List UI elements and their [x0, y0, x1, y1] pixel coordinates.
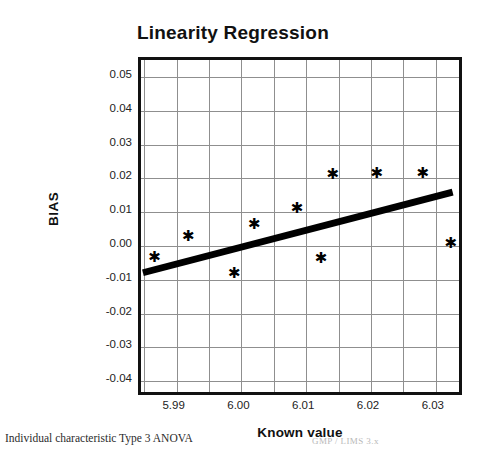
- y-axis-ticks: 0.050.040.030.020.010.00-0.01-0.02-0.03-…: [84, 57, 132, 395]
- x-tick-label: 6.02: [338, 399, 398, 411]
- plot-area: ✱✱✱✱✱✱✱✱✱✱: [138, 57, 462, 395]
- x-tick-label: 5.99: [144, 399, 204, 411]
- x-tick-label: 6.01: [273, 399, 333, 411]
- y-axis-label: BIAS: [46, 192, 61, 226]
- x-axis-ticks: 5.996.006.016.026.03: [138, 399, 462, 419]
- chart-title-text: Linearity Regression: [137, 22, 329, 44]
- y-tick-label: 0.04: [88, 102, 132, 114]
- y-tick-label: -0.01: [88, 271, 132, 283]
- y-tick-label: -0.02: [88, 305, 132, 317]
- y-tick-label: -0.04: [88, 372, 132, 384]
- y-tick-label: 0.01: [88, 203, 132, 215]
- footer-left-note: Individual characteristic Type 3 ANOVA: [5, 432, 193, 444]
- x-tick-label: 6.00: [208, 399, 268, 411]
- page-title: Linearity Regression: [0, 22, 486, 44]
- x-tick-label: 6.03: [403, 399, 463, 411]
- y-tick-label: 0.03: [88, 136, 132, 148]
- footer-right-watermark: GMP / LIMS 3.x: [312, 436, 379, 446]
- regression-line: [141, 60, 459, 392]
- y-tick-label: 0.02: [88, 169, 132, 181]
- y-tick-label: 0.00: [88, 237, 132, 249]
- y-tick-label: -0.03: [88, 338, 132, 350]
- chart-page: Linearity Regression BIAS 0.050.040.030.…: [0, 0, 486, 476]
- y-tick-label: 0.05: [88, 68, 132, 80]
- regression-trend-line: [143, 192, 453, 273]
